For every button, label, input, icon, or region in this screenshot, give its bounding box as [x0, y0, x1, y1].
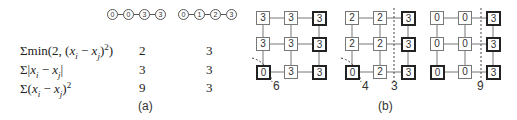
grid1-node-sink: 3: [312, 65, 327, 80]
grid2-node: 2: [373, 65, 387, 79]
grid3-cut-label: 9: [477, 79, 484, 93]
grid3-node-sink: 3: [486, 37, 501, 52]
grid3-node: 0: [458, 11, 472, 25]
grid3-node: 0: [458, 65, 472, 79]
grid2-node-sink: 3: [401, 65, 416, 80]
grid1-node: 3: [284, 37, 298, 51]
grid1-node-sink: 3: [312, 11, 327, 26]
grid3-node: 0: [430, 11, 444, 25]
grid3-node-sink: 3: [486, 65, 501, 80]
grid1-node: 3: [256, 37, 270, 51]
grid2-node: 2: [373, 37, 387, 51]
grid2-node: 2: [345, 11, 359, 25]
grid1-node-sink: 3: [312, 37, 327, 52]
grid3-node: 0: [458, 37, 472, 51]
grid1-node: 3: [284, 11, 298, 25]
grid2-cut-label-curve: 4: [362, 79, 369, 93]
grid1-cut-label: 6: [273, 79, 280, 93]
grid2-node: 2: [345, 37, 359, 51]
grid2-node-source: 0: [345, 65, 360, 80]
caption-b: (b): [378, 99, 393, 113]
grid1-node-source: 0: [256, 65, 271, 80]
grid2-node-sink: 3: [401, 37, 416, 52]
grid3-node-sink: 3: [486, 11, 501, 26]
grid3-node-source: 0: [430, 65, 445, 80]
grid2-node-sink: 3: [401, 11, 416, 26]
grid1-node: 3: [284, 65, 298, 79]
grid1-node: 3: [256, 11, 270, 25]
grid2-node: 2: [373, 11, 387, 25]
grid3-node: 0: [430, 37, 444, 51]
grid2-cut-label-vertical: 3: [391, 79, 398, 93]
